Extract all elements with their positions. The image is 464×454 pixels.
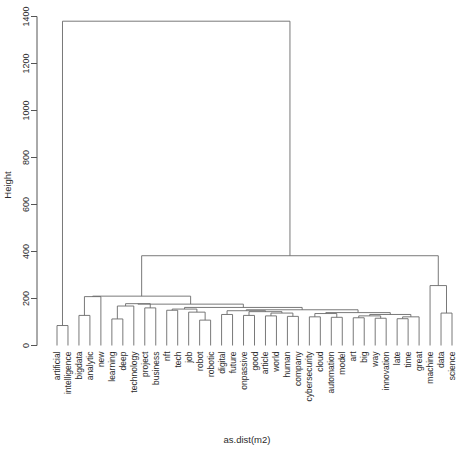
leaf-label-intelligence: intelligence [63,351,73,394]
leaf-label-robotic: robotic [206,351,216,377]
leaf-label-artificial: artificial [52,351,62,380]
leaf-label-late: late [392,351,402,365]
leaf-label-art: art [348,351,358,362]
y-axis-tick-label: 0 [21,343,31,348]
leaf-label-great: great [414,351,424,371]
leaf-label-way: way [370,351,380,368]
dendrogram-tree [57,21,452,345]
leaf-label-automation: automation [326,351,336,393]
y-axis-tick-label: 200 [21,291,31,306]
y-axis-tick-label: 800 [21,150,31,165]
leaf-label-science: science [447,351,457,380]
dendrogram-plot-panel: 0200400600800100012001400 artificialinte… [0,0,464,454]
y-axis-tick-label: 1000 [21,100,31,120]
leaf-label-job: job [184,351,194,364]
leaf-label-machine: machine [425,351,435,383]
leaf-label-deep: deep [118,351,128,370]
leaf-label-project: project [140,351,150,377]
leaf-label-digital: digital [217,351,227,373]
leaf-label-good: good [250,351,260,370]
leaf-label-time: time [403,351,413,367]
y-axis-tick-label: 600 [21,197,31,212]
y-axis-tick-label: 1200 [21,53,31,73]
leaf-label-company: company [293,351,303,386]
y-axis-tick-label: 1400 [21,6,31,26]
leaf-label-cloud: cloud [315,351,325,372]
leaf-label-data: data [436,351,446,368]
leaf-labels: artificialintelligencebigdataanalyticnew… [52,351,457,402]
y-axis-tick-label: 400 [21,244,31,259]
x-axis-title: as.dist(m2) [224,434,271,445]
leaf-label-onpassive: onpassive [239,351,249,390]
leaf-label-robot: robot [195,351,205,371]
leaf-label-tech: tech [173,351,183,367]
leaf-label-bigdata: bigdata [74,351,84,379]
leaf-label-big: big [359,351,369,363]
leaf-label-innovation: innovation [381,351,391,390]
leaf-label-article: article [260,351,270,374]
leaf-label-world: world [271,351,281,373]
leaf-label-analytic: analytic [85,351,95,381]
leaf-label-human: human [282,351,292,377]
dendrogram-svg: 0200400600800100012001400 artificialinte… [0,0,464,454]
leaf-label-learning: learning [107,351,117,382]
leaf-label-new: new [96,351,106,367]
leaf-label-nft: nft [162,351,172,361]
y-axis: 0200400600800100012001400 [21,6,37,348]
y-axis-title: Height [2,171,13,199]
leaf-label-cybersecurity: cybersecurity [304,351,314,402]
leaf-label-business: business [151,352,161,386]
leaf-label-future: future [228,351,238,373]
leaf-label-technology: technology [129,351,139,393]
leaf-label-model: model [337,351,347,374]
